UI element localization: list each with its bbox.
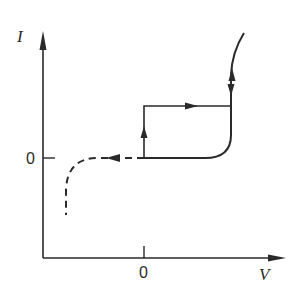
y-axis-arrow-icon — [40, 31, 47, 50]
x-origin-label: 0 — [139, 264, 148, 281]
x-axis-arrow-icon — [268, 255, 286, 262]
y-axis-label: I — [16, 27, 24, 46]
y-origin-label: 0 — [26, 150, 35, 167]
up-arrow-icon — [141, 126, 148, 138]
down-arrow-icon — [228, 84, 235, 96]
left-arrow-icon — [106, 154, 120, 162]
iv-diagram: I V 0 0 — [0, 0, 297, 297]
x-axis-label: V — [259, 265, 272, 284]
right-arrow-icon — [185, 103, 198, 110]
x-axis — [43, 255, 286, 262]
reverse-branch-dashed — [66, 158, 144, 215]
y-axis — [40, 31, 47, 258]
up-arrow-icon-2 — [229, 68, 236, 81]
solid-characteristic-curve — [144, 33, 244, 158]
switching-loop — [144, 106, 231, 158]
